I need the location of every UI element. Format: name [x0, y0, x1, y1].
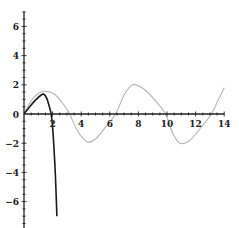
- x-tick-label: 4: [78, 119, 84, 129]
- y-tick-label: 0: [13, 110, 19, 120]
- x-tick-label: 2: [49, 119, 55, 129]
- x-tick-label: 14: [218, 119, 231, 129]
- y-tick-label: 4: [13, 51, 19, 61]
- line-chart: 2468101214−6−4−20246: [0, 0, 239, 228]
- y-tick-label: 2: [13, 80, 19, 90]
- y-tick-label: 6: [13, 22, 19, 32]
- y-tick-label: −6: [5, 197, 19, 207]
- x-tick-label: 10: [161, 119, 174, 129]
- y-tick-label: −2: [5, 139, 19, 149]
- y-tick-label: −4: [5, 168, 19, 178]
- x-tick-label: 6: [107, 119, 113, 129]
- dark-curve: [24, 94, 57, 216]
- chart-curves: [24, 85, 224, 217]
- x-tick-label: 12: [189, 119, 202, 129]
- x-tick-label: 8: [135, 119, 141, 129]
